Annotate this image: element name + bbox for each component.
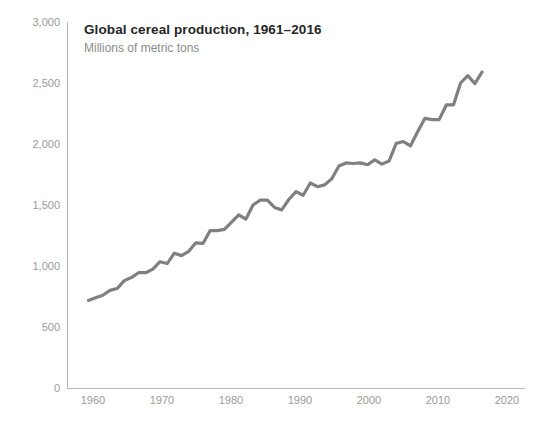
y-tick-label: 1,500	[32, 199, 60, 211]
y-axis-tick-labels: 3,000 2,500 2,000 1,500 1,000 500 0	[32, 16, 60, 394]
y-axis-group: 3,000 2,500 2,000 1,500 1,000 500 0	[32, 16, 67, 394]
x-tick-label: 2010	[426, 394, 450, 406]
x-tick-label: 1960	[81, 394, 105, 406]
chart-subtitle: Millions of metric tons	[84, 40, 464, 56]
x-tick-label: 2020	[495, 394, 519, 406]
cereal-production-line-chart: 3,000 2,500 2,000 1,500 1,000 500 0 1960…	[0, 0, 552, 430]
x-tick-label: 1980	[219, 394, 243, 406]
page-title: Global cereal production, 1961–2016	[84, 22, 464, 38]
x-axis-group: 1960 1970 1980 1990 2000 2010 2020	[67, 389, 525, 407]
y-tick-label: 1,000	[32, 260, 60, 272]
y-tick-label: 2,000	[32, 138, 60, 150]
x-axis-tick-labels: 1960 1970 1980 1990 2000 2010 2020	[81, 394, 519, 406]
y-tick-label: 3,000	[32, 16, 60, 28]
y-tick-label: 0	[54, 382, 60, 394]
x-tick-label: 1990	[288, 394, 312, 406]
y-tick-label: 2,500	[32, 77, 60, 89]
data-line-cereal-production	[88, 72, 482, 300]
y-tick-label: 500	[42, 321, 60, 333]
chart-container: 3,000 2,500 2,000 1,500 1,000 500 0 1960…	[0, 0, 552, 430]
x-tick-label: 1970	[150, 394, 174, 406]
chart-title-block: Global cereal production, 1961–2016 Mill…	[84, 22, 464, 56]
x-tick-label: 2000	[357, 394, 381, 406]
